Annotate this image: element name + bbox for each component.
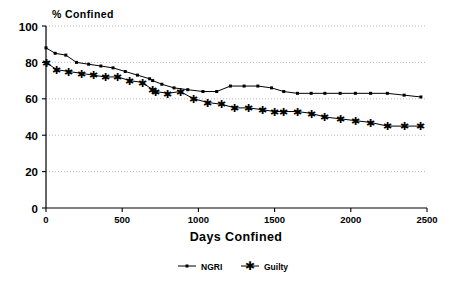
series-guilty: ✱✱✱✱✱✱✱✱✱✱✱✱✱✱✱✱✱✱✱✱✱✱✱✱✱✱✱✱✱✱: [42, 57, 426, 133]
legend-item-ngri[interactable]: NGRI: [178, 262, 222, 272]
point-marker: [124, 70, 127, 73]
point-marker: [54, 52, 57, 55]
y-axis-ticks: 020406080100: [19, 21, 46, 215]
point-marker: [64, 54, 67, 57]
asterisk-marker: ✱: [52, 64, 61, 76]
x-tick-label: 2000: [340, 214, 361, 225]
asterisk-marker: ✱: [279, 106, 288, 118]
chart-figure: 020406080100 05001000150020002500 ✱✱✱✱✱✱…: [0, 0, 449, 285]
asterisk-marker: ✱: [189, 93, 198, 105]
asterisk-marker: ✱: [293, 106, 302, 118]
point-marker: [282, 90, 285, 93]
asterisk-marker: ✱: [217, 98, 226, 110]
point-marker: [160, 83, 163, 86]
legend-item-guilty[interactable]: ✱ Guilty: [241, 259, 288, 273]
asterisk-marker: ✱: [320, 111, 329, 123]
x-axis-title: Days Confined: [190, 230, 283, 244]
y-tick-label: 100: [19, 21, 38, 33]
asterisk-marker: ✱: [125, 75, 134, 87]
asterisk-marker: ✱: [151, 86, 160, 98]
asterisk-marker: ✱: [366, 117, 375, 129]
point-marker: [99, 65, 102, 68]
x-tick-label: 0: [43, 214, 48, 225]
point-marker: [45, 46, 48, 49]
y-tick-label: 0: [32, 203, 38, 215]
point-marker: [215, 90, 218, 93]
legend-label-ngri: NGRI: [201, 262, 222, 272]
point-marker: [201, 90, 204, 93]
y-tick-label: 80: [25, 57, 38, 69]
asterisk-icon: ✱: [245, 259, 255, 273]
asterisk-marker: ✱: [176, 86, 185, 98]
asterisk-marker: ✱: [163, 88, 172, 100]
y-axis-title: % Confined: [52, 8, 114, 20]
point-marker: [403, 94, 406, 97]
point-marker: [151, 79, 154, 82]
asterisk-marker: ✱: [383, 120, 392, 132]
point-marker: [256, 85, 259, 88]
asterisk-marker: ✱: [351, 115, 360, 127]
dot-icon: [186, 265, 189, 268]
asterisk-marker: ✱: [416, 120, 425, 132]
asterisk-marker: ✱: [77, 68, 86, 80]
asterisk-marker: ✱: [244, 102, 253, 114]
asterisk-marker: ✱: [400, 120, 409, 132]
asterisk-marker: ✱: [307, 108, 316, 120]
asterisk-marker: ✱: [336, 113, 345, 125]
x-tick-label: 500: [114, 214, 130, 225]
survival-curve-chart: 020406080100 05001000150020002500 ✱✱✱✱✱✱…: [0, 0, 449, 285]
point-marker: [75, 61, 78, 64]
point-marker: [296, 92, 299, 95]
point-marker: [386, 92, 389, 95]
asterisk-marker: ✱: [64, 66, 73, 78]
y-tick-label: 20: [25, 166, 38, 178]
asterisk-marker: ✱: [230, 102, 239, 114]
grid-lines: [46, 26, 427, 172]
x-tick-label: 1000: [188, 214, 209, 225]
legend-label-guilty: Guilty: [264, 262, 288, 272]
point-marker: [339, 92, 342, 95]
point-marker: [419, 95, 422, 98]
point-marker: [87, 63, 90, 66]
asterisk-marker: ✱: [138, 77, 147, 89]
point-marker: [354, 92, 357, 95]
x-tick-label: 2500: [416, 214, 437, 225]
x-tick-label: 1500: [264, 214, 285, 225]
point-marker: [186, 88, 189, 91]
point-marker: [229, 85, 232, 88]
asterisk-marker: ✱: [42, 57, 51, 69]
y-tick-label: 60: [25, 93, 38, 105]
point-marker: [112, 66, 115, 69]
asterisk-marker: ✱: [101, 71, 110, 83]
point-marker: [310, 92, 313, 95]
asterisk-marker: ✱: [113, 71, 122, 83]
asterisk-marker: ✱: [89, 69, 98, 81]
chart-legend: NGRI ✱ Guilty: [178, 259, 288, 273]
point-marker: [323, 92, 326, 95]
asterisk-marker: ✱: [203, 97, 212, 109]
x-axis-ticks: 05001000150020002500: [43, 208, 437, 225]
point-marker: [270, 86, 273, 89]
y-tick-label: 40: [25, 130, 38, 142]
asterisk-marker: ✱: [270, 106, 279, 118]
point-marker: [148, 77, 151, 80]
asterisk-marker: ✱: [258, 104, 267, 116]
point-marker: [369, 92, 372, 95]
point-marker: [243, 85, 246, 88]
